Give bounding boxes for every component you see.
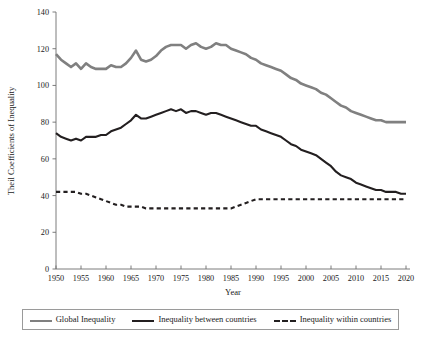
x-tick-label: 1980 [198,274,214,283]
y-tick-label: 140 [37,8,49,17]
line-chart-plot: 020406080100120140 Theil Coefficients of… [0,0,421,300]
x-axis-group: 1950195519601965197019751980198519901995… [48,266,414,298]
legend-label-inequality-within-countries: Inequality within countries [300,315,392,324]
x-axis-title: Year [225,287,241,297]
x-axis-tick-labels: 1950195519601965197019751980198519901995… [48,274,414,283]
series-line-global-inequality [56,43,406,122]
legend-item-inequality-between-countries: Inequality between countries [132,315,256,324]
y-tick-label: 120 [37,45,49,54]
y-axis-ticks [53,12,57,269]
chart-legend: Global Inequality Inequality between cou… [22,309,399,330]
x-tick-label: 1955 [73,274,89,283]
data-series-layer [56,43,406,208]
x-tick-label: 1995 [273,274,289,283]
chart-container: 020406080100120140 Theil Coefficients of… [0,0,421,339]
y-tick-label: 100 [37,81,49,90]
y-tick-label: 60 [41,155,49,164]
x-tick-label: 2015 [373,274,389,283]
x-tick-label: 1970 [148,274,164,283]
y-tick-label: 20 [41,228,49,237]
x-tick-label: 2020 [398,274,414,283]
x-tick-label: 2005 [323,274,339,283]
y-axis-group: 020406080100120140 Theil Coefficients of… [6,8,56,274]
x-tick-label: 2000 [298,274,314,283]
series-line-inequality-between-countries [56,109,406,193]
y-tick-label: 0 [45,265,49,274]
x-tick-label: 1950 [48,274,64,283]
y-axis-tick-labels: 020406080100120140 [37,8,49,274]
series-line-inequality-within-countries [56,192,406,209]
x-tick-label: 1965 [123,274,139,283]
legend-item-inequality-within-countries: Inequality within countries [274,315,392,324]
x-tick-label: 1990 [248,274,264,283]
x-tick-label: 2010 [348,274,364,283]
legend-item-global-inequality: Global Inequality [30,315,116,324]
x-tick-label: 1985 [223,274,239,283]
y-tick-label: 40 [41,192,49,201]
y-axis-title: Theil Coefficients of Inequality [6,86,16,195]
x-tick-label: 1960 [98,274,114,283]
legend-label-global-inequality: Global Inequality [56,315,116,324]
legend-label-inequality-between-countries: Inequality between countries [158,315,256,324]
x-tick-label: 1975 [173,274,189,283]
y-tick-label: 80 [41,118,49,127]
x-axis-ticks [56,266,406,270]
